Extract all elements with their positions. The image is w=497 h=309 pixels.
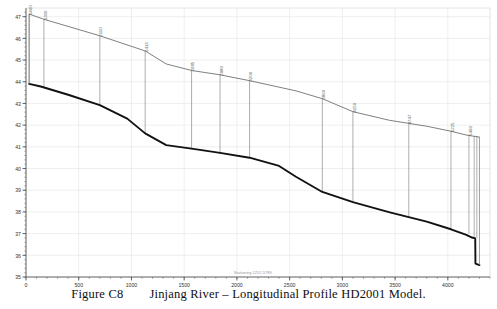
svg-text:5225: 5225 xyxy=(450,122,455,132)
grid-layer xyxy=(26,8,490,277)
svg-text:47: 47 xyxy=(15,14,21,20)
svg-text:3200: 3200 xyxy=(248,71,253,81)
svg-text:43: 43 xyxy=(15,101,21,107)
station-label-layer: 5400530021102413268529803200386041504747… xyxy=(28,5,473,136)
figure-title: Jinjang River – Longitudinal Profile HD2… xyxy=(149,287,425,301)
svg-text:2685: 2685 xyxy=(190,61,195,71)
svg-text:41: 41 xyxy=(15,144,21,150)
svg-text:44: 44 xyxy=(15,79,21,85)
svg-text:5300: 5300 xyxy=(43,10,48,20)
svg-text:45: 45 xyxy=(15,57,21,63)
svg-text:35: 35 xyxy=(15,274,21,280)
svg-text:36: 36 xyxy=(15,253,21,259)
longitudinal-profile-chart: 3536373839404142434445464705001000150020… xyxy=(0,0,497,309)
svg-text:5466: 5466 xyxy=(468,126,473,136)
figure-container: 3536373839404142434445464705001000150020… xyxy=(0,0,497,309)
cross-section-layer xyxy=(29,14,477,238)
svg-text:46: 46 xyxy=(15,36,21,42)
svg-text:42: 42 xyxy=(15,122,21,128)
svg-text:Stationing 1252-5789: Stationing 1252-5789 xyxy=(234,270,273,275)
svg-text:37: 37 xyxy=(15,231,21,237)
svg-text:5400: 5400 xyxy=(28,5,33,15)
svg-text:2980: 2980 xyxy=(219,65,224,75)
svg-text:4150: 4150 xyxy=(352,102,357,112)
svg-text:2413: 2413 xyxy=(144,42,149,52)
svg-text:40: 40 xyxy=(15,166,21,172)
axis-layer: 3536373839404142434445464705001000150020… xyxy=(15,8,490,288)
svg-text:2110: 2110 xyxy=(98,27,103,37)
svg-text:3860: 3860 xyxy=(321,89,326,99)
svg-text:4747: 4747 xyxy=(407,114,412,124)
axis-note-layer: Stationing 1252-5789 xyxy=(234,270,273,275)
figure-caption: Figure C8Jinjang River – Longitudinal Pr… xyxy=(0,287,497,302)
svg-text:39: 39 xyxy=(15,187,21,193)
figure-number: Figure C8 xyxy=(71,287,123,301)
series-layer xyxy=(29,14,479,265)
svg-text:38: 38 xyxy=(15,209,21,215)
